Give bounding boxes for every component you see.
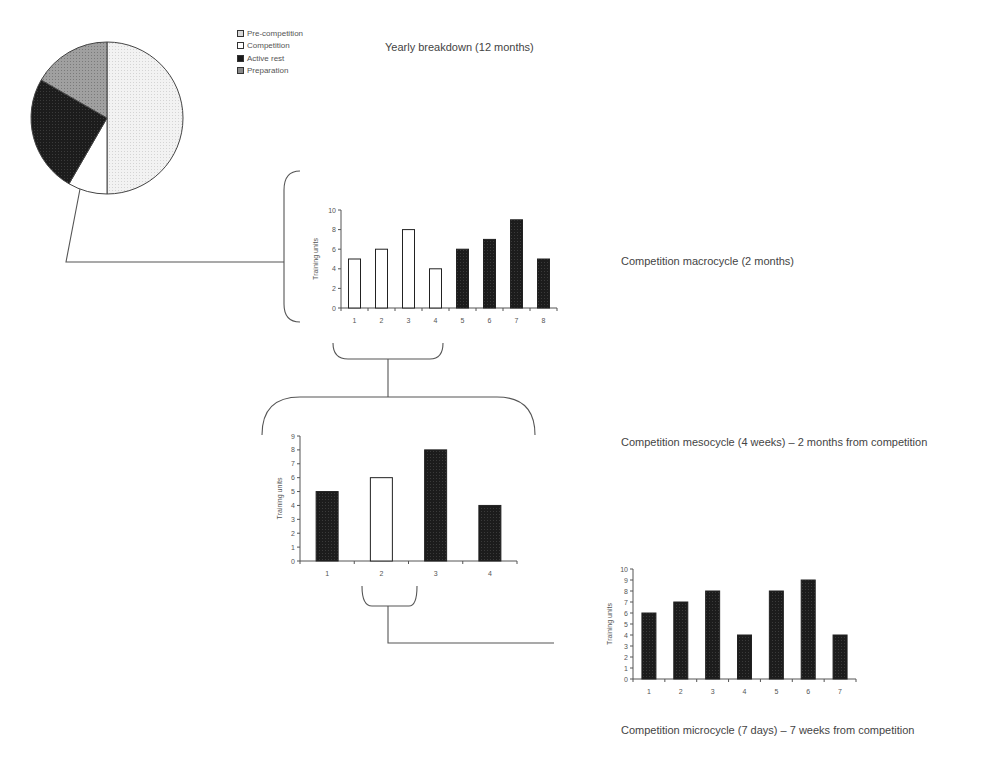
microcycle-bar-chart: 012345678910Training units1234567 <box>606 566 856 696</box>
y-tick-label: 3 <box>624 643 628 650</box>
macro-week-bracket <box>333 343 443 359</box>
x-tick-label: 5 <box>461 317 465 324</box>
x-tick-label: 2 <box>379 570 383 577</box>
y-tick-label: 6 <box>332 246 336 253</box>
y-tick-label: 8 <box>332 226 336 233</box>
x-tick-label: 5 <box>774 688 778 695</box>
x-tick-label: 2 <box>679 688 683 695</box>
pie-to-macro-connector <box>66 189 284 262</box>
y-tick-label: 0 <box>332 305 336 312</box>
y-tick-label: 2 <box>624 654 628 661</box>
bar-2 <box>370 478 392 561</box>
meso-to-micro-connector <box>388 606 554 643</box>
x-tick-label: 7 <box>515 317 519 324</box>
preparation-swatch-icon <box>237 67 244 74</box>
meso-day-bracket <box>362 586 417 606</box>
y-tick-label: 0 <box>291 558 295 565</box>
y-tick-label: 4 <box>624 632 628 639</box>
y-tick-label: 9 <box>291 433 295 440</box>
y-axis-label: Training units <box>312 238 320 280</box>
bar-1 <box>349 259 361 308</box>
y-tick-label: 2 <box>291 530 295 537</box>
y-tick-label: 10 <box>328 207 336 214</box>
legend-item-active-rest: Active rest <box>237 52 303 65</box>
bar-3 <box>706 591 720 679</box>
pie-slice-pre-competition <box>107 42 183 194</box>
legend-label: Competition <box>247 41 290 50</box>
x-tick-label: 4 <box>434 317 438 324</box>
competition-swatch-icon <box>237 42 244 49</box>
y-tick-label: 6 <box>624 610 628 617</box>
bar-1 <box>642 613 656 679</box>
bar-2 <box>376 249 388 308</box>
microcycle-caption: Competition microcycle (7 days) – 7 week… <box>621 724 914 736</box>
legend-label: Pre-competition <box>247 29 303 38</box>
bar-8 <box>538 259 550 308</box>
legend-item-pre-competition: Pre-competition <box>237 27 303 40</box>
y-tick-label: 9 <box>624 577 628 584</box>
y-tick-label: 4 <box>291 502 295 509</box>
bar-3 <box>425 450 447 561</box>
x-tick-label: 3 <box>434 570 438 577</box>
y-tick-label: 5 <box>624 621 628 628</box>
y-tick-label: 5 <box>291 488 295 495</box>
y-axis-label: Training units <box>276 477 284 519</box>
bar-3 <box>403 230 415 308</box>
mesocycle-caption: Competition mesocycle (4 weeks) – 2 mont… <box>621 436 927 448</box>
yearly-pie-chart <box>31 42 183 194</box>
y-tick-label: 4 <box>332 265 336 272</box>
x-tick-label: 8 <box>542 317 546 324</box>
bar-1 <box>316 492 338 561</box>
legend-label: Preparation <box>247 66 288 75</box>
bar-5 <box>769 591 783 679</box>
legend-label: Active rest <box>247 54 284 63</box>
y-tick-label: 10 <box>620 566 628 573</box>
y-tick-label: 0 <box>624 676 628 683</box>
pie-legend: Pre-competition Competition Active rest … <box>237 27 303 77</box>
x-tick-label: 3 <box>711 688 715 695</box>
x-tick-label: 4 <box>743 688 747 695</box>
y-tick-label: 2 <box>332 285 336 292</box>
bar-5 <box>457 249 469 308</box>
y-tick-label: 8 <box>291 446 295 453</box>
x-tick-label: 6 <box>488 317 492 324</box>
periodization-diagram: 0246810Training units12345678 0123456789… <box>0 0 1003 771</box>
x-tick-label: 7 <box>838 688 842 695</box>
yearly-caption: Yearly breakdown (12 months) <box>385 41 534 53</box>
mesocycle-bar-chart: 0123456789Training units1234 <box>276 433 517 578</box>
x-tick-label: 1 <box>325 570 329 577</box>
connectors <box>66 171 554 643</box>
bar-4 <box>430 269 442 308</box>
x-tick-label: 1 <box>353 317 357 324</box>
bar-2 <box>674 602 688 679</box>
bar-4 <box>738 635 752 679</box>
y-tick-label: 7 <box>291 460 295 467</box>
x-tick-label: 6 <box>806 688 810 695</box>
y-tick-label: 8 <box>624 588 628 595</box>
y-tick-label: 3 <box>291 516 295 523</box>
macrocycle-caption: Competition macrocycle (2 months) <box>621 255 794 267</box>
bar-7 <box>511 220 523 308</box>
x-tick-label: 3 <box>407 317 411 324</box>
x-tick-label: 1 <box>647 688 651 695</box>
y-tick-label: 1 <box>291 544 295 551</box>
bar-6 <box>484 239 496 308</box>
macro-brace <box>284 171 300 322</box>
meso-brace <box>262 397 535 435</box>
y-tick-label: 7 <box>624 599 628 606</box>
legend-item-competition: Competition <box>237 40 303 53</box>
bar-7 <box>833 635 847 679</box>
y-tick-label: 6 <box>291 474 295 481</box>
bar-4 <box>479 505 501 561</box>
pre-competition-swatch-icon <box>237 30 244 37</box>
y-tick-label: 1 <box>624 665 628 672</box>
active-rest-swatch-icon <box>237 55 244 62</box>
legend-item-preparation: Preparation <box>237 65 303 78</box>
y-axis-label: Training units <box>606 603 614 645</box>
macrocycle-bar-chart: 0246810Training units12345678 <box>312 207 557 325</box>
x-tick-label: 2 <box>380 317 384 324</box>
x-tick-label: 4 <box>488 570 492 577</box>
bar-6 <box>801 580 815 679</box>
